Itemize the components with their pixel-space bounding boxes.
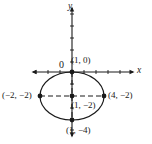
point-bottom [70,118,75,123]
graph-canvas [0,0,152,144]
point-label-bottom: (1, −4) [66,126,91,135]
origin-label: 0 [59,60,64,70]
point-label-left: (−2, −2) [2,91,32,100]
y-axis-label: y [68,2,72,12]
point-top [70,70,75,75]
point-right [102,94,107,99]
point-label-top: (1, 0) [71,56,91,65]
point-label-right: (4, −2) [108,91,133,100]
x-axis-arrow-right [130,70,135,74]
x-axis-label: x [137,66,141,76]
ellipse-graph-figure: y x 0 (1, 0) (−2, −2) (4, −2) (1, −2) (1… [0,0,152,144]
point-center [70,94,75,99]
point-label-center: (1, −2) [71,101,96,110]
point-left [38,94,43,99]
